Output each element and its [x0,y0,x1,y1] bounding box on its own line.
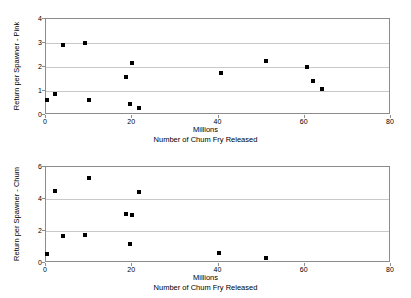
data-point [305,65,309,69]
chart-pink: Return per Spawner - Pink 01234 02040608… [0,0,411,148]
y-tick-label: 0 [38,259,42,266]
data-point [128,242,132,246]
y-tick-label: 3 [38,39,42,46]
data-point [219,71,223,75]
y-axis-title-pink: Return per Spawner - Pink [12,18,21,114]
data-point [53,92,57,96]
x-axis-title-pink: Number of Chum Fry Released [0,135,411,144]
y-tick-label: 6 [38,163,42,170]
data-point [124,75,128,79]
data-point [311,79,315,83]
gridline [46,43,389,44]
plot-area-chum [45,166,390,262]
x-axis-unit-pink: Millions [0,125,411,134]
y-axis-ticks-chum: 0246 [30,166,42,262]
data-point [320,87,324,91]
y-axis-title-chum: Return per Spawner - Chum [12,166,21,262]
y-tick-label: 1 [38,87,42,94]
data-point [83,233,87,237]
y-axis-ticks-pink: 01234 [30,18,42,114]
data-point [217,251,221,255]
gridline [46,91,389,92]
data-point [87,176,91,180]
data-point [130,213,134,217]
gridline [46,231,389,232]
data-point [87,98,91,102]
data-point [130,61,134,65]
y-tick-label: 2 [38,63,42,70]
data-point [264,59,268,63]
y-tick-label: 4 [38,15,42,22]
data-point [45,252,49,256]
data-point [83,41,87,45]
x-axis-unit-chum: Millions [0,273,411,282]
data-point [128,102,132,106]
data-point [137,106,141,110]
data-point [137,190,141,194]
data-point [53,189,57,193]
gridline [46,67,389,68]
plot-area-pink [45,18,390,114]
gridline [46,199,389,200]
x-axis-title-chum: Number of Chum Fry Released [0,283,411,292]
data-point [124,212,128,216]
scatter-plot-figure: Return per Spawner - Pink 01234 02040608… [0,0,411,298]
data-point [61,234,65,238]
data-point [61,43,65,47]
y-tick-label: 2 [38,227,42,234]
y-tick-label: 4 [38,195,42,202]
chart-chum: Return per Spawner - Chum 0246 020406080… [0,148,411,298]
y-tick-label: 0 [38,111,42,118]
data-point [45,98,49,102]
data-point [264,256,268,260]
